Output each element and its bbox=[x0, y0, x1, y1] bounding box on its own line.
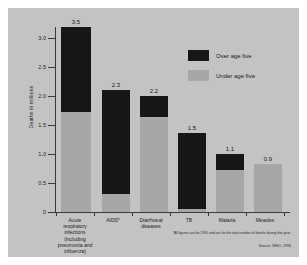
bar-segment-under-age-five bbox=[178, 209, 206, 212]
x-tick bbox=[208, 212, 209, 216]
y-tick-label: 2.5 bbox=[26, 64, 46, 70]
legend-label-under-age-five: Under age five bbox=[216, 73, 255, 79]
bar-total-label: 0.9 bbox=[264, 156, 272, 162]
bar-segment-under-age-five bbox=[102, 194, 130, 213]
chart-figure: Deaths in millions 3.0 2.5 2.0 1.5 1.0 0… bbox=[8, 8, 299, 257]
x-axis-label-malaria: Malaria bbox=[208, 217, 246, 223]
legend-item-over-age-five[interactable]: Over age five bbox=[188, 50, 255, 61]
y-tick bbox=[48, 96, 56, 97]
y-tick-label: 1.5 bbox=[26, 122, 46, 128]
y-tick bbox=[48, 183, 56, 184]
bar-measles[interactable]: 0.9 bbox=[254, 164, 282, 212]
bar-segment-under-age-five bbox=[216, 170, 244, 212]
y-tick bbox=[48, 212, 56, 213]
bar-segment-over-age-five bbox=[61, 27, 91, 112]
bar-diarrhoeal-diseases[interactable]: 2.2 bbox=[140, 96, 168, 212]
chart-legend: Over age five Under age five bbox=[188, 50, 255, 90]
legend-swatch-over-age-five bbox=[188, 50, 209, 61]
x-tick bbox=[94, 212, 95, 216]
bar-segment-over-age-five bbox=[102, 90, 130, 193]
y-tick-label: 0 bbox=[26, 209, 46, 215]
x-axis-label-aids: AIDS* bbox=[94, 217, 132, 223]
bar-aids[interactable]: 2.3 bbox=[102, 90, 130, 212]
y-tick bbox=[48, 154, 56, 155]
label-line: influenza) bbox=[56, 248, 94, 254]
bar-segment-under-age-five bbox=[254, 164, 282, 212]
x-tick bbox=[170, 212, 171, 216]
legend-swatch-under-age-five bbox=[188, 70, 209, 81]
bar-total-label: 1.5 bbox=[188, 125, 196, 131]
label-line: Malaria bbox=[208, 217, 246, 223]
y-tick-label: 3.0 bbox=[26, 35, 46, 41]
legend-item-under-age-five[interactable]: Under age five bbox=[188, 70, 255, 81]
bar-segment-over-age-five bbox=[216, 154, 244, 170]
y-tick bbox=[48, 67, 56, 68]
chart-footnote: *All figures are for 1995 and are for th… bbox=[173, 231, 291, 235]
bar-acute-respiratory-infections[interactable]: 3.5 bbox=[61, 27, 91, 212]
bar-segment-under-age-five bbox=[140, 117, 168, 212]
x-axis-label-tb: TB bbox=[170, 217, 208, 223]
bar-segment-under-age-five bbox=[61, 112, 91, 212]
y-tick bbox=[48, 125, 56, 126]
bar-total-label: 2.3 bbox=[112, 82, 120, 88]
label-line: TB bbox=[170, 217, 208, 223]
x-tick bbox=[246, 212, 247, 216]
bar-total-label: 3.5 bbox=[72, 19, 80, 25]
y-tick-label: 2.0 bbox=[26, 93, 46, 99]
y-tick-label: 1.0 bbox=[26, 151, 46, 157]
bar-segment-over-age-five bbox=[140, 96, 168, 117]
bar-segment-over-age-five bbox=[178, 133, 206, 210]
x-tick bbox=[284, 212, 285, 216]
chart-source: Source: WHO, 1996 bbox=[259, 244, 291, 248]
label-line: AIDS* bbox=[94, 217, 132, 223]
x-axis-label-diarrhoeal-diseases: Diarrhoeal diseases bbox=[132, 217, 170, 229]
bar-malaria[interactable]: 1.1 bbox=[216, 154, 244, 212]
legend-label-over-age-five: Over age five bbox=[216, 53, 252, 59]
bar-total-label: 2.2 bbox=[150, 88, 158, 94]
label-line: diseases bbox=[132, 223, 170, 229]
x-tick bbox=[56, 212, 57, 216]
x-axis-line bbox=[56, 212, 290, 213]
y-axis-title: Deaths in millions bbox=[28, 62, 34, 152]
bar-total-label: 1.1 bbox=[226, 146, 234, 152]
label-line: Measles bbox=[246, 217, 284, 223]
x-axis-label-acute-respiratory-infections: Acute respiratory infections (including … bbox=[56, 217, 94, 254]
x-tick bbox=[132, 212, 133, 216]
y-tick bbox=[48, 38, 56, 39]
x-axis-label-measles: Measles bbox=[246, 217, 284, 223]
y-tick-label: 0.5 bbox=[26, 180, 46, 186]
bar-tb[interactable]: 1.5 bbox=[178, 133, 206, 212]
